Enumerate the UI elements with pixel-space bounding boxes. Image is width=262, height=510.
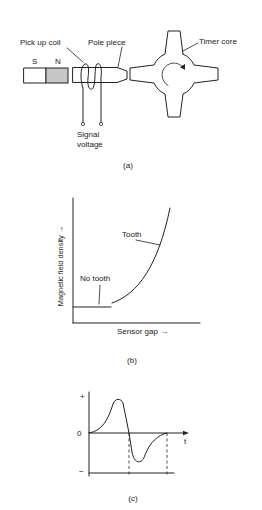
tooth-leader: [136, 240, 160, 245]
time-axis-arrow-icon: [183, 431, 189, 435]
signal-terminal-left: [81, 122, 84, 125]
signal-voltage-label-line2: voltage: [77, 140, 103, 149]
pickup-coil-leader: [67, 48, 83, 62]
magnet-s-label: S: [32, 57, 37, 66]
x-axis-label: Sensor gap →: [117, 327, 168, 336]
panel-b-caption: (b): [127, 356, 137, 365]
no-tooth-leader: [99, 285, 100, 304]
timer-core-label: Timer core: [199, 37, 237, 46]
pole-piece-leader: [118, 47, 122, 67]
tooth-curve: [112, 208, 170, 303]
tooth-annotation: Tooth: [122, 230, 142, 239]
y-tick-zero: 0: [77, 429, 82, 438]
rotation-arrow-icon: [162, 63, 184, 85]
timer-core-leader: [183, 43, 198, 51]
panel-b-field-density-chart: Magnetic field density → Sensor gap → To…: [56, 198, 200, 365]
magnet-south-pole: [24, 68, 46, 83]
y-tick-minus: −: [79, 467, 84, 476]
signal-terminal-right: [99, 122, 102, 125]
magnet-north-pole: [46, 68, 68, 83]
figure: S N Pick up coil Pole piece Timer core S…: [0, 0, 262, 510]
panel-a-caption: (a): [123, 161, 133, 170]
y-axis-label: Magnetic field density →: [56, 226, 65, 307]
panel-a-sensor-diagram: S N Pick up coil Pole piece Timer core S…: [20, 31, 237, 170]
signal-voltage-label-line1: Signal: [77, 130, 99, 139]
pickup-coil-winding: [81, 64, 101, 123]
time-axis-label: t: [184, 437, 187, 446]
panel-c-caption: (c): [128, 494, 138, 503]
permanent-magnet: S N: [24, 57, 68, 83]
pickup-coil-label: Pick up coil: [20, 38, 61, 47]
no-tooth-annotation: No tooth: [80, 274, 110, 283]
magnet-n-label: N: [55, 57, 61, 66]
panel-c-signal-waveform: + 0 − t (c): [77, 392, 189, 503]
y-tick-plus: +: [80, 392, 85, 401]
pole-piece-label: Pole piece: [88, 38, 126, 47]
signal-waveform: [89, 399, 167, 461]
